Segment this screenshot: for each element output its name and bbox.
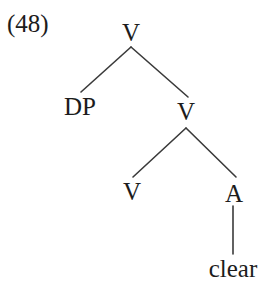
tree-node-v-bar: V (177, 99, 195, 124)
tree-edge-root-v-to-dp (81, 47, 131, 92)
tree-edge-v-bar-to-v-head (133, 128, 186, 177)
tree-node-dp: DP (64, 94, 96, 119)
tree-node-a-head: A (225, 181, 243, 206)
tree-edge-root-v-to-v-bar (131, 47, 188, 97)
tree-node-root-v: V (122, 20, 140, 45)
tree-node-v-head: V (123, 179, 141, 204)
syntax-tree-figure: (48) VDPVVAclear (0, 0, 267, 284)
tree-edge-v-bar-to-a-head (186, 128, 236, 177)
tree-node-clear-leaf: clear (209, 256, 258, 281)
